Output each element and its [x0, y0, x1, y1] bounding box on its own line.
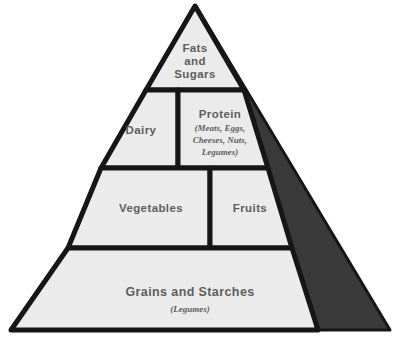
fruits-label: Fruits: [233, 202, 267, 214]
dairy-label: Dairy: [126, 124, 157, 136]
protein-subtext-line2: Cheeses, Nuts,: [193, 135, 247, 145]
fats-and-sugars-label-line3: Sugars: [174, 68, 215, 80]
grains-and-starches-subtext: (Legumes): [170, 304, 210, 314]
protein-label: Protein: [199, 108, 241, 120]
tier-2-dairy-protein[interactable]: Dairy Protein (Meats, Eggs, Cheeses, Nut…: [101, 90, 268, 168]
food-pyramid-diagram: Fats and Sugars Dairy Protein (Meats, Eg…: [0, 0, 414, 342]
protein-subtext-line3: Legumes): [201, 147, 239, 157]
tier-3-vegetables-fruits[interactable]: Vegetables Fruits: [68, 168, 292, 248]
vegetables-label: Vegetables: [119, 202, 183, 214]
fats-and-sugars-label-line2: and: [184, 55, 206, 67]
tier-4-grains-and-starches[interactable]: Grains and Starches (Legumes): [11, 248, 318, 330]
protein-subtext-line1: (Meats, Eggs,: [195, 123, 246, 133]
grains-and-starches-label: Grains and Starches: [125, 285, 254, 299]
fats-and-sugars-label-line1: Fats: [182, 42, 207, 54]
tier-1-fats-and-sugars[interactable]: Fats and Sugars: [146, 6, 244, 90]
